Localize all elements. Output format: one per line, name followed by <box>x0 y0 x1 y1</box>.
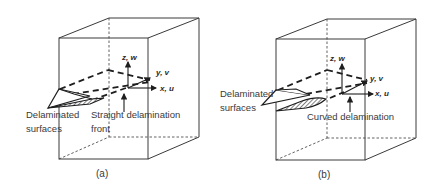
delaminated-surfaces-label: Delaminated <box>220 88 273 99</box>
y-axis-label: y, v <box>369 74 384 83</box>
z-axis-label: z, w <box>121 53 137 62</box>
delaminated-flaps-a <box>48 89 104 108</box>
z-axis-label: z, w <box>329 54 345 63</box>
axes-b: z, w y, v x, u <box>329 54 389 112</box>
x-axis-label: x, u <box>159 84 174 93</box>
straight-front-label: Straight delamination <box>91 109 180 120</box>
delaminated-surfaces-label-2: surfaces <box>26 123 62 134</box>
x-axis-label: x, u <box>374 89 389 98</box>
panel-b: z, w y, v x, u Delaminated surfaces Curv… <box>220 19 416 180</box>
delamination-figure: z, w y, v x, u Delaminated surfaces Stra… <box>0 0 437 189</box>
panel-a: z, w y, v x, u Delaminated surfaces Stra… <box>26 18 199 179</box>
y-axis-label: y, v <box>155 68 170 77</box>
annotations-a: Delaminated surfaces Straight delaminati… <box>26 109 180 179</box>
straight-front-label-2: front <box>91 123 110 134</box>
curved-front-label: Curved delamination <box>307 111 394 122</box>
delaminated-surfaces-label-2: surfaces <box>220 102 256 113</box>
delaminated-surfaces-label: Delaminated <box>26 109 79 120</box>
caption-b: (b) <box>318 169 330 180</box>
caption-a: (a) <box>96 168 108 179</box>
